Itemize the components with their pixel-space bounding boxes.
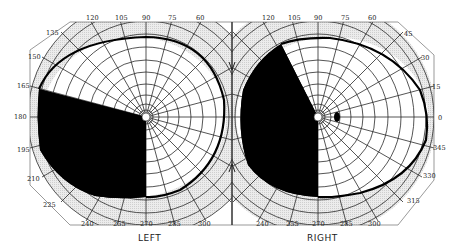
label-120: 120 — [262, 14, 275, 22]
label-165: 165 — [17, 82, 30, 90]
label-60: 60 — [368, 14, 376, 22]
label-240: 240 — [256, 220, 269, 228]
label-240: 240 — [81, 220, 94, 228]
label-105: 105 — [288, 14, 301, 22]
right-eye-field — [198, 0, 438, 237]
visual-field-svg: 120 105 90 75 60 135 150 165 180 195 210… — [0, 0, 456, 250]
label-45: 45 — [404, 30, 412, 38]
label-120: 120 — [86, 14, 99, 22]
label-195: 195 — [17, 146, 30, 154]
label-255: 255 — [286, 220, 299, 228]
label-15: 15 — [432, 83, 440, 91]
label-105: 105 — [115, 14, 128, 22]
label-0: 0 — [438, 114, 442, 122]
label-330: 330 — [423, 172, 436, 180]
blind-spot — [334, 112, 340, 122]
label-60: 60 — [196, 14, 204, 22]
label-345: 345 — [433, 144, 446, 152]
label-285: 285 — [340, 220, 353, 228]
label-255: 255 — [113, 220, 126, 228]
label-300: 300 — [198, 220, 211, 228]
label-90: 90 — [314, 14, 322, 22]
label-180: 180 — [14, 113, 27, 121]
label-315: 315 — [407, 197, 420, 205]
label-135: 135 — [46, 29, 59, 37]
label-210: 210 — [27, 175, 40, 183]
label-75: 75 — [168, 14, 176, 22]
right-eye-label: RIGHT — [307, 233, 338, 243]
label-270: 270 — [140, 220, 153, 228]
label-75: 75 — [341, 14, 349, 22]
label-90: 90 — [142, 14, 150, 22]
label-285: 285 — [168, 220, 181, 228]
label-30: 30 — [421, 54, 429, 62]
label-300: 300 — [368, 220, 381, 228]
left-eye-field — [26, 0, 266, 237]
left-eye-label: LEFT — [138, 233, 161, 243]
label-270: 270 — [312, 220, 325, 228]
label-150: 150 — [28, 53, 41, 61]
label-225: 225 — [43, 201, 56, 209]
visual-field-chart: 120 105 90 75 60 135 150 165 180 195 210… — [0, 0, 456, 250]
